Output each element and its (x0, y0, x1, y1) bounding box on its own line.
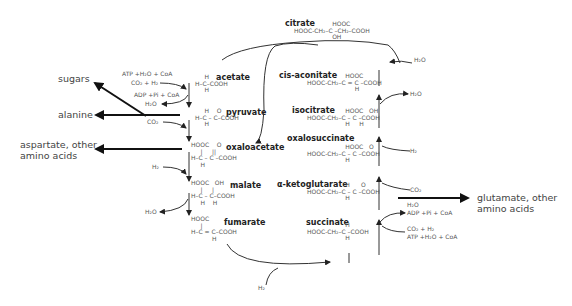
compound-cis-aconitate-structure: HOOC HOOC-CH₂–C = C –COOH H (307, 73, 382, 93)
pathway-arrows (0, 0, 572, 306)
cofactor-succinate-out-2: ADP +Pi + CoA (407, 209, 452, 216)
output-glutamate-line2: amino acids (477, 203, 534, 214)
cofactor-malate-out: H₂O (145, 208, 157, 215)
output-sugars: sugars (58, 73, 90, 84)
compound-alpha-ketoglutarate-structure: H O HOOC-CH₂–C – C –COOH H (307, 182, 380, 202)
output-aspartate-line1: aspartate, other (20, 139, 97, 150)
cofactor-citrate-in: H₂O (414, 56, 426, 63)
cofactor-acetate-in-1: ATP +H₂O + CoA (122, 70, 172, 77)
cofactor-acetate-out-h2o: H₂O (145, 100, 157, 107)
compound-citrate-structure: HOOC HOOC-CH₂–C –CH₂–COOH OH (294, 21, 370, 41)
compound-fumarate-structure: HOOC | H–C = C–COOH H (191, 216, 237, 242)
compound-oxaloacetate-structure: HOOC O | || H–C – C –COOH H (191, 142, 237, 168)
cofactor-oxalosuccinate-in: H₂ (410, 147, 417, 154)
cofactor-acetate-in-2: CO₂ + H₂ (131, 79, 158, 86)
compound-isocitrate-structure: HOOC OH HOOC-CH₂–C – C –COOH H H (307, 108, 380, 128)
compound-malate-structure: HOOC OH | | H–C – C–COOH H H (191, 180, 235, 206)
cofactor-acetate-out: ADP +Pi + CoA (134, 91, 179, 98)
cofactor-akg-in: CO₂ (410, 186, 421, 193)
compound-pyruvate-structure: H O H–C – C–COOH H (195, 108, 239, 128)
output-alanine: alanine (58, 109, 93, 120)
compound-succinate-structure: H HOOC-CH₂–C –COOH H (307, 222, 369, 242)
cofactor-fumarate-in: H₂ (258, 284, 265, 291)
cofactor-succinate-out-1: H₂O (407, 201, 419, 208)
output-aspartate-line2: amino acids (20, 150, 77, 161)
compound-acetate-structure: H H–C–COOH H (195, 74, 228, 94)
cofactor-isocitrate-out: H₂O (410, 90, 422, 97)
cofactor-succinate-in-1: CO₂ + H₂ (407, 225, 434, 232)
output-glutamate-line1: glutamate, other (477, 192, 557, 203)
cofactor-oxaloacetate-in: H₂ (152, 163, 159, 170)
cofactor-pyruvate-in: CO₂ (147, 118, 158, 125)
cofactor-succinate-in-2: ATP +H₂O + CoA (407, 233, 457, 240)
compound-oxalosuccinate-structure: HOOC O HOOC-CH₂–C – C –COOH H (307, 144, 380, 164)
compound-oxalosuccinate-name: oxalosuccinate (287, 134, 354, 143)
